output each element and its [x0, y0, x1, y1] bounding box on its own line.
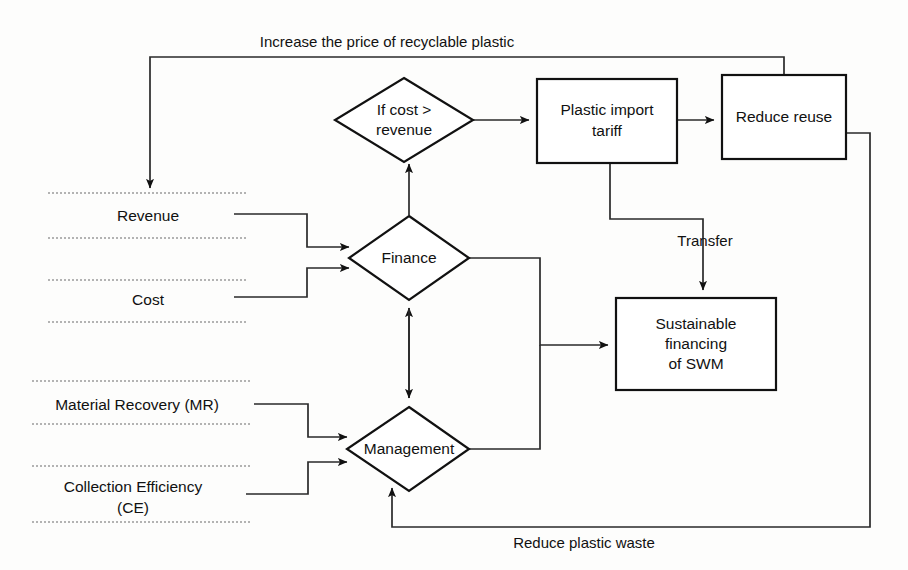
edge-label-increase-price: Increase the price of recyclable plastic	[260, 33, 515, 50]
edge-label-transfer: Transfer	[677, 232, 732, 249]
edge-cost-to-finance	[234, 268, 349, 297]
node-sustainable-financing-label-line2: financing	[665, 335, 727, 352]
node-management-label: Management	[364, 440, 455, 457]
edge-collection-efficiency-to-management	[246, 462, 347, 494]
variable-cost-label: Cost	[132, 291, 165, 308]
edge-label-reduce-plastic-waste: Reduce plastic waste	[513, 534, 655, 551]
variable-material-recovery-label: Material Recovery (MR)	[55, 396, 219, 413]
edge-finance-to-sustainable-financing	[469, 258, 608, 345]
variable-revenue-label: Revenue	[117, 207, 179, 224]
variable-collection-efficiency: Collection Efficiency (CE)	[64, 478, 203, 516]
node-sustainable-financing-label-line3: of SWM	[668, 355, 723, 372]
node-sustainable-financing-label-line1: Sustainable	[655, 315, 736, 332]
flowchart-svg: If cost > revenue Plastic import tariff …	[0, 0, 908, 570]
node-finance[interactable]: Finance	[349, 216, 469, 300]
variable-collection-efficiency-label-line2: (CE)	[117, 499, 149, 516]
node-if-cost-revenue-label-line2: revenue	[376, 121, 432, 138]
node-reduce-reuse[interactable]: Reduce reuse	[722, 75, 846, 159]
node-management[interactable]: Management	[347, 407, 469, 491]
node-if-cost-revenue-label-line1: If cost >	[377, 101, 432, 118]
edge-material-recovery-to-management	[254, 404, 347, 437]
variable-material-recovery: Material Recovery (MR)	[55, 396, 219, 413]
node-if-cost-revenue[interactable]: If cost > revenue	[335, 78, 473, 162]
node-reduce-reuse-label-line1: Reduce reuse	[736, 108, 833, 125]
node-plastic-import-tariff-label-line2: tariff	[592, 122, 623, 139]
edge-transfer-to-sustainable-financing	[610, 163, 703, 290]
variable-revenue: Revenue	[117, 207, 179, 224]
node-finance-label: Finance	[381, 249, 436, 266]
edge-revenue-to-finance	[234, 214, 349, 247]
variable-band-dotted-lines	[32, 193, 250, 522]
flowchart-canvas: If cost > revenue Plastic import tariff …	[0, 0, 908, 570]
variable-cost: Cost	[132, 291, 165, 308]
edge-management-to-sustainable-financing	[469, 345, 540, 449]
variable-collection-efficiency-label-line1: Collection Efficiency	[64, 478, 203, 495]
node-plastic-import-tariff-label-line1: Plastic import	[560, 101, 654, 118]
node-sustainable-financing[interactable]: Sustainable financing of SWM	[616, 298, 776, 390]
node-plastic-import-tariff[interactable]: Plastic import tariff	[537, 79, 677, 163]
